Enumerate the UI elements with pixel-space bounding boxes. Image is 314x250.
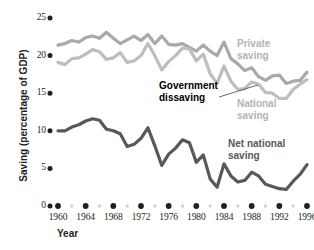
y-tick-label: 5 [24, 162, 46, 172]
x-tick-label: 1968 [99, 212, 127, 222]
y-tick-dot [48, 53, 53, 58]
x-tick-label: 1976 [155, 212, 183, 222]
x-tick-dot-major [83, 203, 89, 209]
x-tick-label: 1980 [182, 212, 210, 222]
y-tick-dot [48, 16, 53, 21]
x-tick-dot-minor [125, 204, 128, 207]
x-tick-dot-minor [70, 204, 73, 207]
chart-figure: Saving (percentage of GDP) Year Private … [0, 0, 314, 250]
series-label-net-national-saving: Net national saving [228, 138, 285, 161]
y-tick-dot [48, 166, 53, 171]
x-tick-dot-major [166, 203, 172, 209]
y-tick-label: 25 [24, 12, 46, 22]
x-tick-label: 1996 [293, 212, 314, 222]
x-tick-label: 1984 [210, 212, 238, 222]
x-tick-dot-major [304, 203, 310, 209]
x-tick-label: 1972 [127, 212, 155, 222]
y-tick-dot [48, 91, 53, 96]
x-tick-dot-minor [181, 204, 184, 207]
x-tick-label: 1964 [72, 212, 100, 222]
series-label-private-saving: Private saving [237, 38, 270, 61]
y-tick-label: 0 [24, 200, 46, 210]
series-label-government-dissaving: Government dissaving [159, 80, 218, 103]
y-tick-label: 20 [24, 50, 46, 60]
x-tick-label: 1992 [265, 212, 293, 222]
x-tick-dot-major [138, 203, 144, 209]
x-tick-dot-major [55, 203, 61, 209]
x-tick-dot-major [110, 203, 116, 209]
x-tick-label: 1960 [44, 212, 72, 222]
x-tick-dot-major [276, 203, 282, 209]
y-tick-label: 10 [24, 125, 46, 135]
x-tick-dot-minor [236, 204, 239, 207]
y-tick-label: 15 [24, 87, 46, 97]
y-tick-dot [48, 128, 53, 133]
x-tick-label: 1988 [238, 212, 266, 222]
series-label-national-saving: National saving [237, 98, 276, 121]
x-axis-title: Year [57, 228, 78, 239]
x-tick-dot-minor [208, 204, 211, 207]
y-tick-dot [48, 204, 53, 209]
x-tick-dot-major [249, 203, 255, 209]
x-tick-dot-minor [153, 204, 156, 207]
x-tick-dot-major [221, 203, 227, 209]
x-tick-dot-minor [98, 204, 101, 207]
x-tick-dot-major [193, 203, 199, 209]
x-tick-dot-minor [264, 204, 267, 207]
government-dissaving-leader-line [219, 85, 258, 97]
x-tick-dot-minor [291, 204, 294, 207]
